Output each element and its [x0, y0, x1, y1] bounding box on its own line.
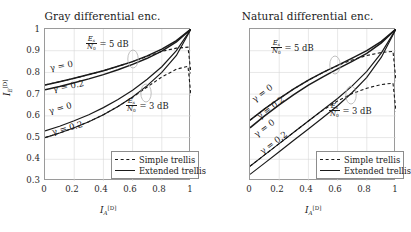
frac-denominator: N0	[86, 44, 97, 52]
x-axis-label: IA[D]	[305, 205, 321, 216]
marker-ellipse-5db-gray	[128, 50, 138, 68]
ytick-0-7: 0.7	[16, 89, 40, 99]
frac-es-n0: Es N0	[271, 40, 282, 56]
ytick-0-5: 0.5	[16, 132, 40, 142]
x-axis-label: IA[D]	[100, 205, 116, 216]
frac-es-n0: Es N0	[126, 98, 137, 114]
legend-label-simple-trellis: Simple trellis	[139, 155, 195, 165]
annotation-snr-3db-text: = 3 dB	[342, 106, 371, 116]
annotation-snr-5db-text: = 5 dB	[284, 43, 313, 53]
y-axis-label-sup: [D]	[2, 80, 8, 89]
xtick-0-8: 0.8	[148, 184, 170, 194]
legend-label-extended-trellis: Extended trellis	[139, 166, 206, 176]
frac-es-n0: Es N0	[329, 103, 340, 119]
xtick-1: 1	[180, 184, 200, 194]
annotation-snr-3db-gray: Es N0 = 3 dB	[126, 98, 169, 114]
legend-label-simple-trellis: Simple trellis	[344, 155, 400, 165]
annotation-snr-3db-natural: Es N0 = 3 dB	[329, 103, 372, 119]
panel-title-gray: Gray differential enc.	[0, 10, 205, 22]
frac-num-sub: s	[336, 105, 338, 110]
frac-denominator: N0	[126, 106, 137, 114]
ytick-0-6: 0.6	[16, 110, 40, 120]
panel-natural-differential-enc: Natural differential enc. 0 0.2 0.4 0.6 …	[205, 0, 410, 232]
ytick-1: 1	[20, 24, 40, 34]
frac-denominator: N0	[329, 111, 340, 119]
ytick-0-4: 0.4	[16, 153, 40, 163]
legend-entry-extended-trellis: Extended trellis	[115, 165, 194, 176]
xtick-0: 0	[239, 184, 259, 194]
legend-natural: Simple trellis Extended trellis	[316, 151, 404, 179]
xtick-0-2: 0.2	[266, 184, 288, 194]
legend-entry-simple-trellis: Simple trellis	[320, 154, 399, 165]
panel-gray-differential-enc: Gray differential enc. 1 0.9 0.8 0.7 0.6…	[0, 0, 205, 232]
legend-entry-simple-trellis: Simple trellis	[115, 154, 194, 165]
panel-title-natural: Natural differential enc.	[205, 10, 410, 22]
frac-den-sub: 0	[133, 108, 136, 113]
y-axis-label-base: I	[2, 92, 12, 96]
xtick-0-4: 0.4	[295, 184, 317, 194]
frac-den-sub: 0	[336, 113, 339, 118]
x-axis-label-sup: [D]	[313, 205, 322, 211]
legend-key-dashed-icon	[320, 155, 340, 164]
xtick-1: 1	[385, 184, 405, 194]
legend-key-solid-icon	[115, 166, 135, 175]
ytick-0-9: 0.9	[16, 45, 40, 55]
xtick-0: 0	[34, 184, 54, 194]
legend-gray: Simple trellis Extended trellis	[111, 151, 199, 179]
xtick-0-2: 0.2	[61, 184, 83, 194]
xtick-0-6: 0.6	[119, 184, 141, 194]
annotation-snr-3db-text: = 3 dB	[139, 101, 168, 111]
frac-denominator: N0	[271, 48, 282, 56]
annotation-snr-5db-natural: Es N0 = 5 dB	[271, 40, 314, 56]
xtick-0-8: 0.8	[353, 184, 375, 194]
annotation-snr-5db-text: = 5 dB	[99, 39, 128, 49]
frac-es-n0: Es N0	[86, 36, 97, 52]
x-axis-label-sup: [D]	[108, 205, 117, 211]
legend-entry-extended-trellis: Extended trellis	[320, 165, 399, 176]
y-axis-label-sub: E	[7, 88, 13, 92]
frac-num-sub: s	[278, 42, 280, 47]
annotation-snr-5db-gray: Es N0 = 5 dB	[86, 36, 129, 52]
y-axis-label: IE[D]	[2, 80, 13, 96]
legend-label-extended-trellis: Extended trellis	[344, 166, 411, 176]
frac-num-sub: s	[93, 38, 95, 43]
xtick-0-6: 0.6	[324, 184, 346, 194]
marker-ellipse-3db-natural	[346, 86, 356, 104]
frac-den-sub: 0	[93, 46, 96, 51]
frac-num-sub: s	[133, 100, 135, 105]
legend-key-dashed-icon	[115, 155, 135, 164]
ytick-0-8: 0.8	[16, 67, 40, 77]
legend-key-solid-icon	[320, 166, 340, 175]
frac-den-sub: 0	[278, 50, 281, 55]
xtick-0-4: 0.4	[90, 184, 112, 194]
